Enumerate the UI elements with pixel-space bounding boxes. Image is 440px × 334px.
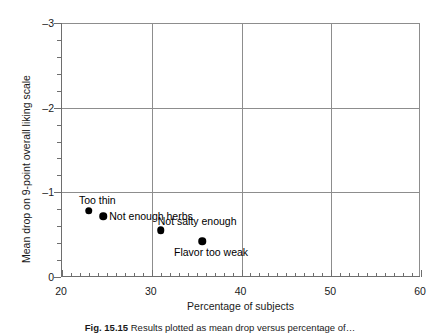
gridline-x-50 — [331, 23, 332, 276]
x-tick-minor-33 — [179, 273, 180, 277]
y-tick-minor--0.6 — [57, 226, 61, 227]
y-tick-minor--2.8 — [57, 40, 61, 41]
x-tick-label-50: 50 — [324, 285, 336, 297]
caption-number: Fig. 15.15 — [85, 322, 128, 333]
x-tick-minor-28 — [134, 273, 135, 277]
data-point-label-flavor-too-weak: Flavor too weak — [174, 246, 248, 258]
y-tick-minor--1.8 — [57, 125, 61, 126]
y-tick-minor--0.8 — [57, 209, 61, 210]
y-tick-minor--2.4 — [57, 74, 61, 75]
x-tick-minor-24 — [98, 273, 99, 277]
x-tick-major-50 — [331, 270, 332, 277]
y-tick-label-neg2: –2 — [36, 102, 54, 114]
x-tick-minor-42 — [259, 273, 260, 277]
y-tick-major--3.0 — [54, 23, 61, 24]
y-tick-minor--0.2 — [57, 260, 61, 261]
data-point-not-salty-enough — [157, 227, 165, 235]
data-point-flavor-too-weak — [198, 238, 206, 246]
caption-text: Results plotted as mean drop versus perc… — [131, 322, 355, 333]
x-tick-major-20 — [62, 270, 63, 277]
x-tick-minor-43 — [268, 273, 269, 277]
x-tick-minor-27 — [125, 273, 126, 277]
x-tick-label-30: 30 — [145, 285, 157, 297]
plot-area: Too thinNot enough herbsNot salty enough… — [61, 23, 420, 277]
y-tick-minor--1.6 — [57, 142, 61, 143]
x-tick-minor-44 — [277, 273, 278, 277]
gridline-x-40 — [242, 23, 243, 276]
x-tick-minor-55 — [376, 273, 377, 277]
x-tick-minor-45 — [286, 273, 287, 277]
x-tick-minor-57 — [394, 273, 395, 277]
y-tick-label-neg1: –1 — [36, 186, 54, 198]
x-tick-minor-26 — [116, 273, 117, 277]
x-tick-label-20: 20 — [55, 285, 67, 297]
x-tick-minor-54 — [367, 273, 368, 277]
x-tick-minor-35 — [197, 273, 198, 277]
plot-frame-right — [419, 23, 420, 276]
x-tick-minor-32 — [170, 273, 171, 277]
y-tick-minor--1.2 — [57, 175, 61, 176]
x-tick-minor-53 — [358, 273, 359, 277]
x-tick-minor-52 — [349, 273, 350, 277]
y-tick-minor--1.4 — [57, 158, 61, 159]
y-tick-label-neg3: –3 — [36, 17, 54, 29]
x-tick-label-40: 40 — [235, 285, 247, 297]
x-tick-major-30 — [152, 270, 153, 277]
gridline-x-30 — [152, 23, 153, 276]
y-tick-minor--2.6 — [57, 57, 61, 58]
figure-caption: Fig. 15.15 Results plotted as mean drop … — [0, 322, 440, 333]
x-tick-minor-21 — [71, 273, 72, 277]
x-tick-minor-25 — [107, 273, 108, 277]
x-tick-major-60 — [421, 270, 422, 277]
y-tick-minor--2.2 — [57, 91, 61, 92]
x-tick-minor-48 — [313, 273, 314, 277]
x-tick-minor-59 — [412, 273, 413, 277]
y-tick-major--1.0 — [54, 192, 61, 193]
x-tick-minor-41 — [250, 273, 251, 277]
gridline-y-neg2 — [62, 108, 420, 109]
x-tick-minor-56 — [385, 273, 386, 277]
x-tick-label-60: 60 — [414, 285, 426, 297]
x-tick-minor-34 — [188, 273, 189, 277]
x-tick-minor-39 — [233, 273, 234, 277]
x-tick-minor-37 — [215, 273, 216, 277]
x-axis-title: Percentage of subjects — [61, 300, 420, 312]
x-tick-minor-22 — [80, 273, 81, 277]
x-tick-minor-29 — [143, 273, 144, 277]
x-tick-minor-58 — [403, 273, 404, 277]
data-point-label-not-salty-enough: Not salty enough — [158, 215, 237, 227]
x-tick-minor-36 — [206, 273, 207, 277]
data-point-not-enough-herbs — [100, 212, 108, 220]
y-axis-title: Mean drop on 9-point overall liking scal… — [20, 75, 32, 263]
y-tick-label-0: 0 — [36, 271, 54, 283]
x-tick-minor-47 — [304, 273, 305, 277]
x-tick-minor-38 — [224, 273, 225, 277]
y-tick-minor--0.4 — [57, 243, 61, 244]
figure-scatter-plot: Too thinNot enough herbsNot salty enough… — [0, 0, 440, 334]
x-tick-minor-46 — [295, 273, 296, 277]
x-tick-minor-23 — [89, 273, 90, 277]
y-tick-major-0.0 — [54, 277, 61, 278]
x-tick-minor-49 — [322, 273, 323, 277]
data-point-label-too-thin: Too thin — [79, 194, 116, 206]
data-point-too-thin — [85, 207, 93, 215]
x-tick-major-40 — [242, 270, 243, 277]
y-tick-major--2.0 — [54, 108, 61, 109]
x-tick-minor-51 — [340, 273, 341, 277]
x-tick-minor-31 — [161, 273, 162, 277]
